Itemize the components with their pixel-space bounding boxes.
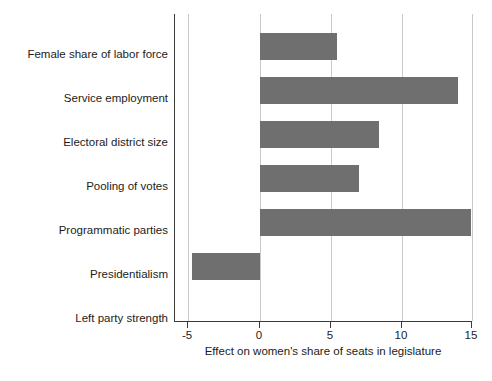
horizontal-bar-chart: Female share of labor force Service empl…	[0, 0, 492, 381]
tick-mark-0	[259, 322, 260, 328]
category-label-service-employment: Service employment	[64, 92, 168, 105]
plot-area	[174, 14, 472, 322]
tick-label-minus-5: -5	[182, 329, 192, 342]
tick-mark-5	[330, 322, 331, 328]
category-label-pooling-of-votes: Pooling of votes	[86, 180, 168, 193]
bar-programmatic-parties	[260, 209, 471, 236]
bar-female-share-of-labor-force	[260, 33, 337, 60]
category-axis-labels: Female share of labor force Service empl…	[0, 14, 172, 322]
tick-label-15: 15	[465, 329, 478, 342]
bar-pooling-of-votes	[260, 165, 359, 192]
bar-electoral-district-size	[260, 121, 379, 148]
category-label-female-share-of-labor-force: Female share of labor force	[27, 48, 168, 61]
tick-mark-10	[401, 322, 402, 328]
gridline-minus-5	[188, 14, 189, 321]
category-label-programmatic-parties: Programmatic parties	[59, 224, 168, 237]
category-label-presidentialism: Presidentialism	[90, 268, 168, 281]
bar-presidentialism	[192, 253, 260, 280]
tick-label-10: 10	[395, 329, 408, 342]
tick-label-0: 0	[256, 329, 262, 342]
gridline-15	[472, 14, 473, 321]
category-label-left-party-strength: Left party strength	[75, 312, 168, 325]
category-label-electoral-district-size: Electoral district size	[63, 136, 168, 149]
tick-mark-minus-5	[187, 322, 188, 328]
gridline-10	[402, 14, 403, 321]
x-axis-title: Effect on women's share of seats in legi…	[174, 344, 472, 358]
tick-mark-15	[471, 322, 472, 328]
bar-service-employment	[260, 77, 458, 104]
tick-label-5: 5	[327, 329, 333, 342]
